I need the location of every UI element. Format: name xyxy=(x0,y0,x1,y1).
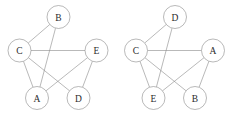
graph-figure: BCEADDCAEB xyxy=(0,0,233,121)
graph-node-label: D xyxy=(75,94,82,104)
graph-node-c-left[interactable]: C xyxy=(8,39,31,62)
graph-left: BCEAD xyxy=(8,6,108,110)
graph-edge-a-e xyxy=(162,58,204,91)
graph-canvas: BCEADDCAEB xyxy=(0,0,233,121)
graph-node-label: E xyxy=(94,46,100,56)
graph-node-e-left[interactable]: E xyxy=(85,39,108,62)
graph-left-nodes: BCEAD xyxy=(8,6,108,110)
graph-edge-c-a xyxy=(23,61,33,87)
graph-right-nodes: DCAEB xyxy=(125,6,225,110)
graph-node-d-left[interactable]: D xyxy=(67,87,90,110)
graph-node-label: E xyxy=(151,94,157,104)
graph-node-e-right[interactable]: E xyxy=(142,87,165,110)
graph-node-a-left[interactable]: A xyxy=(26,87,49,110)
graph-edge-b-c xyxy=(28,24,50,43)
graph-edge-a-b xyxy=(199,61,209,87)
graph-edge-e-a xyxy=(46,58,88,91)
graph-node-d-right[interactable]: D xyxy=(164,6,187,29)
graph-edge-d-e xyxy=(156,28,172,87)
graph-edge-d-c xyxy=(145,24,167,43)
graph-node-a-right[interactable]: A xyxy=(202,39,225,62)
graph-left-edges xyxy=(23,24,92,90)
graph-node-label: C xyxy=(16,46,22,56)
graph-node-b-right[interactable]: B xyxy=(184,87,207,110)
graph-edge-c-b xyxy=(145,58,186,91)
graph-node-c-right[interactable]: C xyxy=(125,39,148,62)
graph-edge-c-e xyxy=(140,61,150,87)
graph-edge-b-a xyxy=(40,28,56,87)
graph-node-label: D xyxy=(172,13,179,23)
graph-edge-e-d xyxy=(83,61,93,87)
graph-node-label: A xyxy=(34,94,41,104)
graph-right-edges xyxy=(140,24,209,90)
graph-node-b-left[interactable]: B xyxy=(47,6,70,29)
graph-node-label: B xyxy=(192,94,198,104)
graph-edge-c-d xyxy=(28,58,69,91)
graph-node-label: B xyxy=(55,13,61,23)
graph-right: DCAEB xyxy=(125,6,225,110)
graph-node-label: C xyxy=(133,46,139,56)
graph-node-label: A xyxy=(210,46,217,56)
